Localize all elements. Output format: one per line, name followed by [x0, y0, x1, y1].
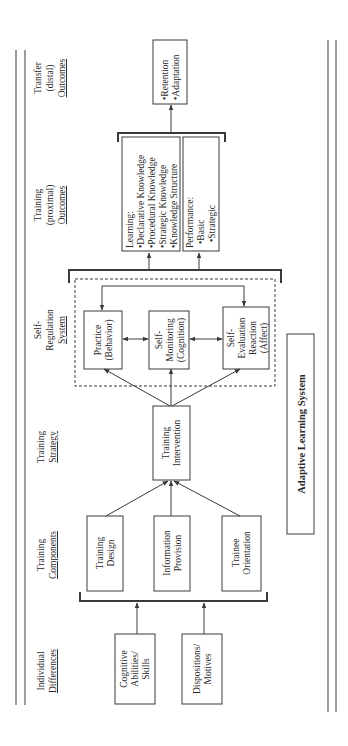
- svg-text:Self-: Self-: [226, 329, 236, 347]
- hdr-components-1: Training: [36, 539, 46, 572]
- svg-text:Self-: Self-: [154, 331, 164, 349]
- svg-text:Intervention: Intervention: [172, 420, 182, 467]
- title-box: Adaptive Learning System: [287, 334, 314, 534]
- hdr-proximal-3: Outcomes: [57, 185, 67, 224]
- svg-text:(Cognition): (Cognition): [176, 318, 187, 362]
- svg-text:(Behavior): (Behavior): [104, 319, 115, 360]
- svg-text:Design: Design: [106, 539, 116, 566]
- svg-text:Training: Training: [95, 537, 105, 570]
- svg-text:Strategy: Strategy: [48, 431, 58, 463]
- bracket-proximal: [69, 270, 281, 283]
- diagram-title: Adaptive Learning System: [296, 374, 307, 494]
- hdr-transfer-3: Outcomes: [57, 58, 67, 97]
- hdr-proximal-1: Training: [33, 189, 43, 222]
- adaptive-learning-diagram: Transfer (distal) Outcomes Training (pro…: [0, 0, 348, 746]
- svg-text:Reaction: Reaction: [248, 321, 258, 355]
- svg-text:Components: Components: [48, 531, 58, 579]
- frame: [16, 40, 336, 712]
- svg-text:•Retention: •Retention: [160, 59, 170, 100]
- svg-text:Performance:: Performance:: [185, 197, 195, 248]
- svg-text:System: System: [57, 315, 67, 344]
- box-training-intervention: Training Intervention: [153, 406, 190, 480]
- box-trainee-orientation: Trainee Orientation: [222, 516, 261, 591]
- box-training-design: Training Design: [87, 516, 123, 591]
- svg-text:Training: Training: [161, 427, 171, 460]
- svg-text:•Knowledge Structure: •Knowledge Structure: [169, 164, 179, 248]
- svg-text:•Declarative Knowledge: •Declarative Knowledge: [136, 155, 146, 248]
- box-practice: Practice (Behavior): [84, 311, 122, 369]
- svg-text:(proximal): (proximal): [45, 185, 56, 226]
- box-self-monitoring: Self- Monitoring (Cognition): [149, 311, 189, 369]
- svg-text:Outcomes: Outcomes: [57, 185, 67, 224]
- svg-text:Training: Training: [36, 539, 46, 572]
- box-information-provision: Information Provision: [154, 516, 190, 591]
- hdr-individual-1: Individual: [36, 651, 46, 690]
- hdr-transfer-2: (distal): [45, 65, 56, 92]
- svg-text:Skills: Skills: [141, 658, 151, 680]
- hdr-transfer-1: Transfer: [33, 61, 43, 94]
- svg-text:Training: Training: [36, 431, 46, 464]
- svg-text:Regulation: Regulation: [45, 309, 55, 351]
- hdr-selfreg-3: System: [57, 315, 67, 344]
- hdr-proximal-2: (proximal): [45, 185, 56, 226]
- svg-text:Differences: Differences: [48, 649, 58, 693]
- svg-text:•Adaptation: •Adaptation: [171, 54, 181, 100]
- bracket-components: [80, 592, 267, 601]
- svg-text:Dispositions/: Dispositions/: [192, 644, 202, 695]
- column-headers: Transfer (distal) Outcomes Training (pro…: [33, 58, 67, 693]
- svg-text:Cognitive: Cognitive: [119, 650, 129, 687]
- hdr-selfreg-1: Self-: [33, 321, 43, 339]
- box-self-evaluation: Self- Evaluation Reaction (Affect): [223, 307, 270, 369]
- box-learning: Learning: •Declarative Knowledge •Proced…: [122, 137, 180, 251]
- svg-text:Outcomes: Outcomes: [57, 58, 67, 97]
- svg-text:Trainee: Trainee: [231, 539, 241, 568]
- svg-text:•Strategic: •Strategic: [207, 205, 217, 242]
- hdr-components-2: Components: [48, 531, 58, 579]
- svg-text:Provision: Provision: [173, 535, 183, 572]
- hdr-individual-2: Differences: [48, 649, 58, 693]
- svg-text:Individual: Individual: [36, 651, 46, 690]
- box-cognitive-abilities: Cognitive Abilities/ Skills: [115, 634, 155, 704]
- svg-text:•Basic: •Basic: [196, 220, 206, 244]
- svg-text:(Affect): (Affect): [259, 323, 270, 353]
- box-performance: Performance: •Basic •Strategic: [183, 137, 219, 251]
- svg-text:Practice: Practice: [93, 325, 103, 356]
- svg-text:Transfer: Transfer: [33, 61, 43, 94]
- hdr-strategy-1: Training: [36, 431, 46, 464]
- svg-text:•Strategic Knowledge: •Strategic Knowledge: [158, 165, 168, 248]
- svg-text:Learning:: Learning:: [125, 211, 135, 248]
- svg-text:Training: Training: [33, 189, 43, 222]
- svg-text:Motives: Motives: [203, 653, 213, 684]
- hdr-selfreg-2: Regulation: [45, 309, 55, 351]
- svg-text:Abilities/: Abilities/: [130, 651, 140, 687]
- svg-text:•Procedural Knowledge: •Procedural Knowledge: [147, 157, 157, 248]
- svg-text:Orientation: Orientation: [242, 531, 252, 575]
- box-dispositions-motives: Dispositions/ Motives: [182, 634, 222, 704]
- hdr-strategy-2: Strategy: [48, 431, 58, 463]
- svg-text:Monitoring: Monitoring: [165, 318, 175, 362]
- svg-text:Evaluation: Evaluation: [237, 317, 247, 358]
- box-transfer: •Retention •Adaptation: [153, 40, 187, 104]
- svg-text:Information: Information: [162, 530, 172, 576]
- svg-text:Self-: Self-: [33, 321, 43, 339]
- svg-text:(distal): (distal): [45, 65, 56, 92]
